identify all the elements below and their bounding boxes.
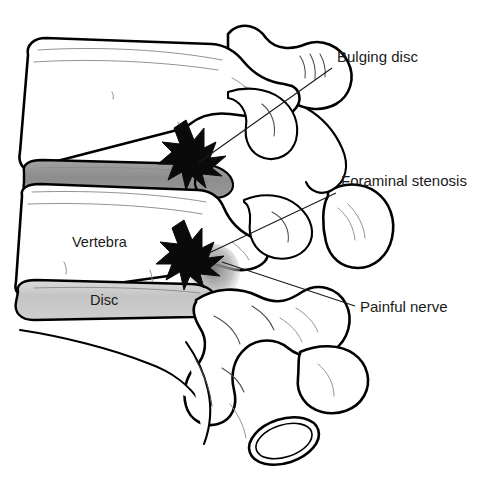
label-painful-nerve: Painful nerve (360, 298, 448, 315)
label-disc: Disc (90, 292, 118, 308)
lower-spinous-process (298, 346, 368, 413)
spine-illustration: Bulging disc Foraminal stenosis Painful … (0, 0, 485, 492)
label-vertebra: Vertebra (72, 234, 128, 250)
label-foraminal-stenosis: Foraminal stenosis (341, 172, 467, 189)
label-bulging-disc: Bulging disc (337, 48, 418, 65)
superior-articular-process (323, 185, 393, 269)
